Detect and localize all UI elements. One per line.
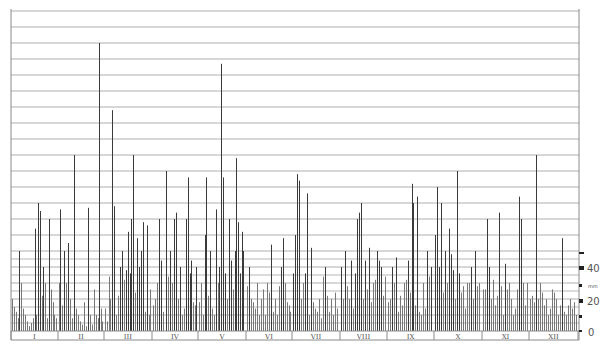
- month-label: II: [78, 333, 84, 341]
- y-axis-right: 40 mm 20 0: [579, 252, 600, 338]
- month-label: XI: [502, 333, 510, 341]
- precipitation-chart: IIIIIIIVVVIVIIVIIIIXXXIXII 40 mm 20 0: [0, 0, 607, 350]
- month-label: IV: [171, 333, 180, 341]
- month-label: V: [218, 333, 225, 341]
- axis-tick-10: [579, 315, 582, 318]
- axis-tick-20: [579, 299, 583, 303]
- axis-tick-40: [579, 266, 584, 270]
- month-axis: IIIIIIIVVVIVIIVIIIIXXXIXII: [11, 331, 579, 341]
- axis-label-20: 20: [587, 296, 600, 307]
- month-label: VIII: [356, 333, 371, 341]
- month-label: VII: [310, 333, 322, 341]
- axis-unit-label: mm: [588, 283, 598, 289]
- axis-tick-30: [579, 284, 582, 287]
- month-label: I: [33, 333, 36, 341]
- month-label: III: [124, 333, 133, 341]
- axis-tick-45: [579, 252, 584, 254]
- month-label: XII: [548, 333, 559, 341]
- month-label: VI: [264, 333, 273, 341]
- axis-tick-0: [579, 330, 582, 332]
- axis-label-40: 40: [587, 263, 600, 274]
- axis-label-0: 0: [588, 327, 594, 338]
- month-label: IX: [407, 333, 415, 341]
- month-label: X: [456, 333, 461, 341]
